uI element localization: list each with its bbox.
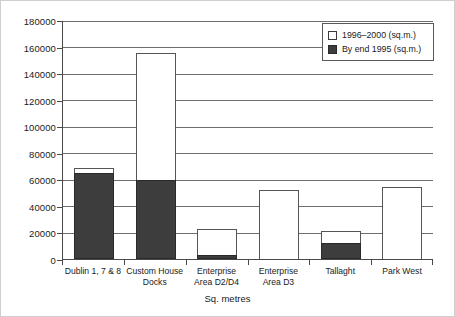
x-label-line1: Enterprise	[259, 266, 298, 276]
x-label-dublin-1-7-8: Dublin 1, 7 & 8	[62, 266, 124, 287]
x-label-tallaght: Tallaght	[309, 266, 371, 287]
legend-label: By end 1995 (sq.m.)	[342, 44, 421, 54]
legend: 1996–2000 (sq.m.) By end 1995 (sq.m.)	[322, 23, 434, 61]
legend-swatch-white-icon	[328, 31, 337, 40]
x-label-line2: Area D2/D4	[187, 277, 247, 288]
bar-stack-tallaght[interactable]	[321, 231, 361, 259]
y-tick-label: 60000	[29, 175, 56, 186]
bar-stack-custom-house-docks[interactable]	[136, 53, 176, 259]
legend-label: 1996–2000 (sq.m.)	[342, 30, 416, 40]
bar-segment-1996-2000	[321, 231, 361, 243]
x-axis-tickmarks	[62, 260, 433, 265]
y-tick-label: 80000	[29, 148, 56, 159]
x-label-line2: Docks	[125, 277, 185, 288]
x-axis-labels: Dublin 1, 7 & 8 Custom House Docks Enter…	[62, 266, 433, 287]
bar-stack-park-west[interactable]	[382, 187, 422, 259]
bar-segment-by-end-1995	[136, 180, 176, 259]
x-label-park-west: Park West	[371, 266, 433, 287]
y-tick-label: 40000	[29, 201, 56, 212]
x-label-enterprise-area-d2-d4: Enterprise Area D2/D4	[186, 266, 248, 287]
bar-slot	[248, 21, 310, 259]
legend-swatch-dark-icon	[328, 45, 337, 54]
bar-segment-1996-2000	[259, 190, 299, 259]
bar-slot	[186, 21, 248, 259]
x-label-line1: Dublin 1, 7 & 8	[65, 266, 121, 276]
bar-segment-by-end-1995	[321, 243, 361, 259]
bar-segment-1996-2000	[382, 187, 422, 259]
y-tick-label: 20000	[29, 228, 56, 239]
plot-area: 1996–2000 (sq.m.) By end 1995 (sq.m.)	[62, 21, 433, 260]
x-label-line1: Custom House	[126, 266, 183, 276]
y-tick-label: 100000	[24, 122, 56, 133]
y-tick-label: 120000	[24, 95, 56, 106]
bar-segment-by-end-1995	[74, 173, 114, 259]
bar-slot	[63, 21, 125, 259]
bar-segment-by-end-1995	[197, 255, 237, 259]
legend-entry-1996-2000: 1996–2000 (sq.m.)	[328, 28, 428, 42]
legend-entry-by-end-1995: By end 1995 (sq.m.)	[328, 42, 428, 56]
x-label-line1: Tallaght	[325, 266, 355, 276]
bar-segment-1996-2000	[136, 53, 176, 180]
y-tick-label: 0	[51, 255, 56, 266]
x-label-line2: Area D3	[248, 277, 308, 288]
x-axis-title: Sq. metres	[1, 293, 454, 304]
y-tick-label: 160000	[24, 42, 56, 53]
bar-stack-enterprise-area-d2-d4[interactable]	[197, 229, 237, 259]
y-tick-label: 140000	[24, 69, 56, 80]
bar-segment-1996-2000	[197, 229, 237, 255]
bar-slot	[125, 21, 187, 259]
y-axis: 180000 160000 140000 120000 100000 80000…	[1, 21, 62, 260]
x-label-custom-house-docks: Custom House Docks	[124, 266, 186, 287]
y-tick-label: 180000	[24, 16, 56, 27]
bar-chart-figure: 180000 160000 140000 120000 100000 80000…	[0, 0, 455, 317]
x-label-line1: Park West	[382, 266, 421, 276]
bar-stack-enterprise-area-d3[interactable]	[259, 190, 299, 259]
bar-stack-dublin-1-7-8[interactable]	[74, 168, 114, 259]
x-label-line1: Enterprise	[197, 266, 236, 276]
x-label-enterprise-area-d3: Enterprise Area D3	[247, 266, 309, 287]
